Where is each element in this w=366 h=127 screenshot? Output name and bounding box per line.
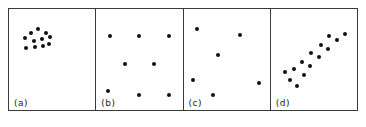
data-point: [317, 55, 321, 59]
data-point: [211, 93, 215, 97]
scatter-plot-c: [184, 9, 270, 110]
data-point: [137, 93, 141, 97]
data-point: [152, 62, 156, 66]
panel-d: (d): [271, 9, 357, 110]
data-point: [191, 78, 195, 82]
data-point: [238, 33, 242, 37]
data-point: [33, 45, 37, 49]
data-point: [300, 60, 304, 64]
data-point: [309, 51, 313, 55]
data-point: [108, 34, 112, 38]
data-point: [288, 78, 292, 82]
data-point: [48, 35, 52, 39]
panel-label-b: (b): [101, 99, 115, 108]
data-point: [283, 70, 287, 74]
data-point: [123, 62, 127, 66]
data-point: [47, 42, 51, 46]
data-point: [308, 64, 312, 68]
data-point: [295, 84, 299, 88]
panel-c: (c): [184, 9, 271, 110]
point-pattern-figure: (a) (b) (c) (d): [8, 8, 358, 111]
scatter-plot-b: [96, 9, 182, 110]
panel-b: (b): [96, 9, 183, 110]
scatter-plot-d: [271, 9, 357, 110]
scatter-plot-a: [9, 9, 95, 110]
panel-label-c: (c): [189, 99, 202, 108]
panel-a: (a): [9, 9, 96, 110]
data-point: [106, 89, 110, 93]
data-point: [40, 37, 44, 41]
data-point: [29, 31, 33, 35]
data-point: [319, 43, 323, 47]
data-point: [44, 31, 48, 35]
data-point: [257, 81, 261, 85]
data-point: [23, 36, 27, 40]
panel-label-d: (d): [276, 99, 290, 108]
data-point: [41, 44, 45, 48]
data-point: [195, 27, 199, 31]
data-point: [36, 27, 40, 31]
data-point: [335, 38, 339, 42]
data-point: [327, 34, 331, 38]
data-point: [167, 34, 171, 38]
data-point: [137, 34, 141, 38]
data-point: [167, 93, 171, 97]
data-point: [216, 53, 220, 57]
data-point: [24, 46, 28, 50]
data-point: [326, 47, 330, 51]
data-point: [302, 73, 306, 77]
data-point: [343, 32, 347, 36]
panel-label-a: (a): [14, 99, 28, 108]
data-point: [32, 39, 36, 43]
data-point: [292, 67, 296, 71]
